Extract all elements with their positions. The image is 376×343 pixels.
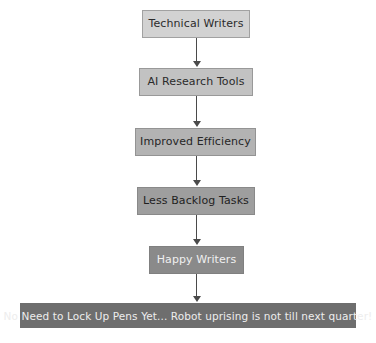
- closing-banner[interactable]: No Need to Lock Up Pens Yet... Robot upr…: [20, 303, 356, 328]
- flow-connector-1: [196, 38, 197, 62]
- arrowhead-icon: [193, 180, 201, 186]
- flow-node-happy-writers[interactable]: Happy Writers: [149, 246, 244, 274]
- flow-node-ai-research-tools[interactable]: AI Research Tools: [139, 68, 253, 96]
- flow-node-label: Improved Efficiency: [140, 136, 251, 148]
- flow-connector-4: [196, 215, 197, 240]
- flow-node-label: Less Backlog Tasks: [143, 195, 249, 207]
- flow-node-technical-writers[interactable]: Technical Writers: [142, 10, 250, 38]
- flow-node-less-backlog-tasks[interactable]: Less Backlog Tasks: [137, 187, 255, 215]
- flow-node-label: Happy Writers: [157, 254, 237, 266]
- flow-node-improved-efficiency[interactable]: Improved Efficiency: [135, 128, 256, 156]
- flow-node-label: AI Research Tools: [147, 76, 244, 88]
- arrowhead-icon: [193, 121, 201, 127]
- flowchart-diagram: Technical Writers AI Research Tools Impr…: [0, 0, 376, 343]
- flow-connector-5: [196, 274, 197, 297]
- arrowhead-icon: [193, 239, 201, 245]
- arrowhead-icon: [193, 296, 201, 302]
- closing-banner-label: No Need to Lock Up Pens Yet... Robot upr…: [4, 310, 373, 322]
- flow-node-label: Technical Writers: [148, 18, 243, 30]
- flow-connector-2: [196, 96, 197, 122]
- arrowhead-icon: [193, 61, 201, 67]
- flow-connector-3: [196, 156, 197, 181]
